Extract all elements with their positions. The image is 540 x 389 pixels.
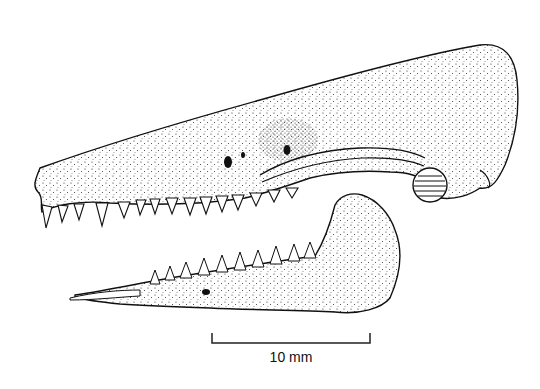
scale-bar-label: 10 mm xyxy=(211,349,371,365)
skull-illustration xyxy=(0,0,540,389)
cranium xyxy=(35,45,518,212)
auditory-bulla xyxy=(413,168,447,202)
scale-bar xyxy=(211,333,371,345)
mandible xyxy=(70,194,400,313)
